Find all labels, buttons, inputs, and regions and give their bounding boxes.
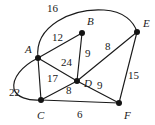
edge-weight-a-c-curved: 22	[9, 86, 20, 98]
edge-weight-d-e: 8	[105, 40, 111, 52]
edge-weight-a-b: 12	[52, 31, 63, 43]
edge-weight-a-c: 17	[47, 72, 59, 84]
edge-weight-a-e: 16	[47, 2, 59, 14]
vertex-dot-f	[116, 100, 122, 106]
weighted-graph-figure: A B C D E F 16 12 24 17 22 9 8 8 9 6 15	[0, 0, 155, 125]
edge-weight-e-f: 15	[128, 69, 140, 81]
vertex-dot-c	[38, 97, 44, 103]
edge-c-f	[41, 100, 119, 103]
vertex-dot-e	[134, 29, 140, 35]
vertex-label-b: B	[87, 15, 94, 27]
vertex-label-a: A	[24, 43, 32, 55]
edge-weight-c-f: 6	[77, 108, 83, 120]
vertex-label-c: C	[37, 109, 45, 121]
vertex-label-d: D	[83, 77, 92, 89]
edge-weight-b-d: 9	[85, 47, 91, 59]
vertex-label-f: F	[123, 109, 131, 121]
edge-e-f	[119, 32, 137, 103]
vertex-dot-d	[74, 78, 80, 84]
vertex-labels-group: A B C D E F	[24, 15, 150, 121]
graph-canvas: A B C D E F 16 12 24 17 22 9 8 8 9 6 15	[0, 0, 155, 125]
edge-weight-d-f: 9	[97, 79, 103, 91]
edge-weight-c-d: 8	[66, 84, 72, 96]
edge-weight-a-d: 24	[61, 56, 73, 68]
vertex-label-e: E	[142, 17, 150, 29]
edge-a-c	[38, 58, 41, 100]
vertex-dot-a	[35, 55, 41, 61]
edge-b-d	[77, 33, 82, 81]
edges-group	[14, 10, 137, 103]
vertex-dot-b	[79, 30, 85, 36]
